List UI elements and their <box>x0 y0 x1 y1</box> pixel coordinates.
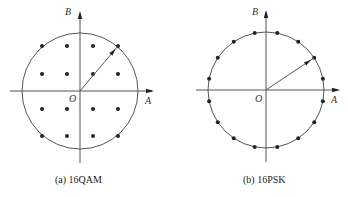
psk-constellation-point <box>216 120 220 124</box>
psk-constellation-point <box>253 145 257 149</box>
psk-axis-b-label: B <box>252 6 258 17</box>
psk-constellation-point <box>207 99 211 103</box>
qam-constellation-point <box>65 107 69 111</box>
qam-axis-a-label: A <box>145 95 151 106</box>
qam-constellation-point <box>91 134 95 138</box>
psk-constellation-point <box>321 77 325 81</box>
qam-constellation-point <box>91 44 95 48</box>
psk-axis-a-arrow-icon <box>332 88 340 92</box>
qam-constellation-point <box>40 72 44 76</box>
qam-constellation-point <box>65 72 69 76</box>
qam-axis-a-arrow-icon <box>146 89 154 93</box>
qam-constellation-point <box>40 134 44 138</box>
psk-axis-a-label: A <box>331 94 337 105</box>
psk-constellation-point <box>216 56 220 60</box>
psk-origin-label: O <box>255 93 262 104</box>
psk-constellation-point <box>275 145 279 149</box>
qam-origin-label: O <box>69 93 76 104</box>
psk-constellation-point <box>207 77 211 81</box>
qam-constellation-point <box>65 134 69 138</box>
qam-constellation-point <box>116 134 120 138</box>
psk-axis-b-arrow-icon <box>264 10 268 18</box>
qam-caption: (a) 16QAM <box>55 174 102 185</box>
psk-constellation-point <box>253 31 257 35</box>
qam-constellation-point <box>40 44 44 48</box>
qam-constellation-point <box>91 107 95 111</box>
psk-constellation-point <box>232 40 236 44</box>
psk-constellation-point <box>321 99 325 103</box>
psk-constellation-point <box>312 120 316 124</box>
psk-caption: (b) 16PSK <box>243 174 286 185</box>
qam-constellation-point <box>116 72 120 76</box>
constellation-canvas <box>0 0 348 197</box>
qam-constellation-point <box>40 107 44 111</box>
qam-axis-b-arrow-icon <box>78 11 82 19</box>
psk-constellation-point <box>296 136 300 140</box>
psk-constellation-point <box>296 40 300 44</box>
qam-axis-b-label: B <box>65 6 71 17</box>
psk-constellation-point <box>232 136 236 140</box>
qam-constellation-point <box>116 107 120 111</box>
psk-vector-arrow-head-icon <box>304 60 311 66</box>
qam-constellation-point <box>65 44 69 48</box>
psk-constellation-point <box>275 31 279 35</box>
